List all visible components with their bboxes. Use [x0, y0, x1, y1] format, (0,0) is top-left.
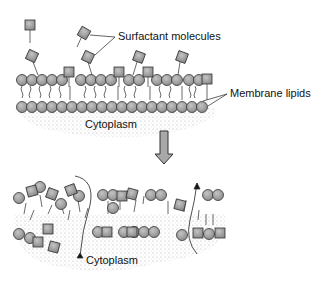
membrane-lipids-label: Membrane lipids [230, 87, 311, 99]
process-arrow-down [155, 131, 173, 164]
membrane-bilayer-top [17, 75, 208, 113]
surfactant-membrane-diagram: Surfactant molecules Membrane lipids Cyt… [0, 0, 322, 283]
cytoplasm-label-top: Cytoplasm [85, 118, 137, 130]
surfactant-molecules-label: Surfactant molecules [118, 30, 221, 42]
cytoplasm-label-bottom: Cytoplasm [86, 254, 138, 266]
diagram-graphics [0, 0, 322, 283]
